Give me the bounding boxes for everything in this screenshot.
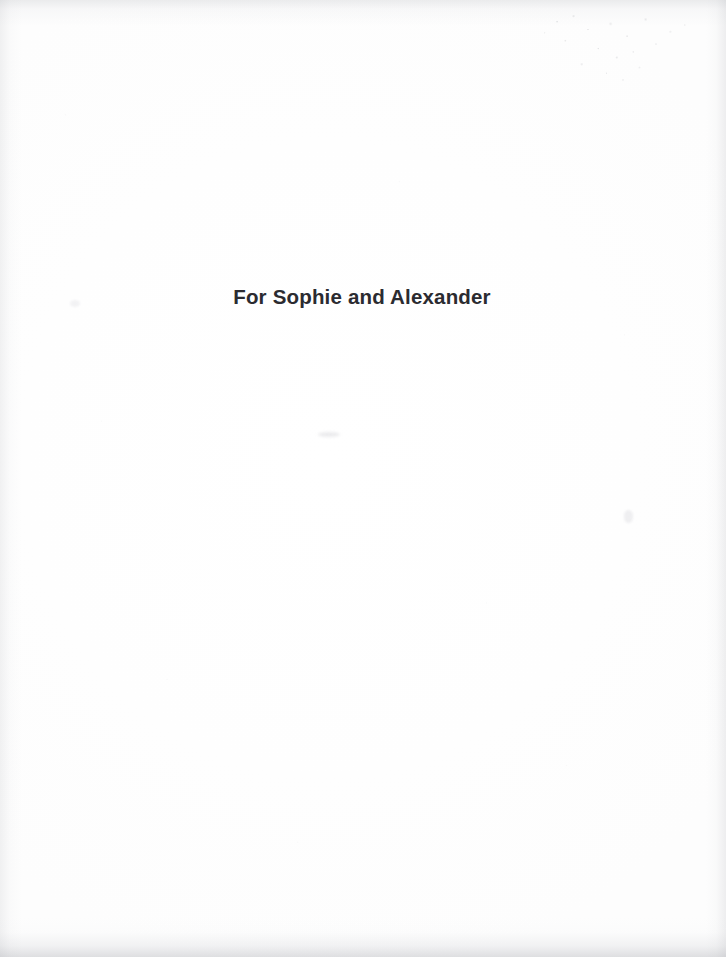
scan-smudge-right (624, 510, 633, 523)
scan-edge-shadow-bottom (0, 917, 726, 957)
dedication-text: For Sophie and Alexander (233, 286, 491, 308)
scan-edge-shadow-left (0, 0, 22, 957)
scan-edge-shadow-top (0, 0, 726, 26)
dedication-page: For Sophie and Alexander (0, 0, 726, 957)
scan-smudge-left (70, 300, 80, 307)
scan-edge-shadow-right (706, 0, 726, 957)
scan-dust-speckles (520, 6, 726, 118)
dedication-block: For Sophie and Alexander (0, 286, 726, 308)
paper-background (0, 0, 726, 957)
paper-grain-texture (0, 0, 726, 957)
scan-smudge-center (318, 432, 340, 437)
